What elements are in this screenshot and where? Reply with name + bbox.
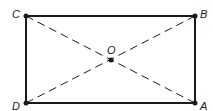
vertex-a-point [193, 101, 198, 106]
rectangle-diagram: C B D A O [0, 0, 213, 111]
vertex-b-point [193, 14, 198, 19]
center-o-point [109, 58, 114, 63]
label-c: C [12, 8, 20, 20]
vertex-d-point [24, 101, 29, 106]
label-b: B [200, 8, 207, 20]
vertex-c-point [24, 14, 29, 19]
label-o: O [107, 44, 116, 56]
label-d: D [12, 100, 20, 111]
label-a: A [199, 100, 207, 111]
